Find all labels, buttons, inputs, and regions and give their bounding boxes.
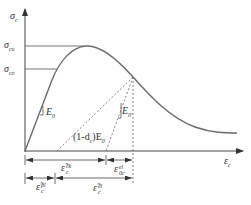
e0-label: E0 — [46, 107, 55, 119]
damaged-modulus-label: (1-dc)E0 — [73, 132, 105, 144]
y-axis-label: σc — [10, 11, 18, 23]
x-axis-label: εc — [224, 156, 231, 168]
plastic-strain-label: ε̃plc — [36, 182, 46, 194]
elastic-strain-0c-label: εel0c — [114, 164, 125, 176]
sigma-cu-label: σcu — [4, 40, 15, 52]
cracking-strain-label: ε̃ckc — [61, 163, 71, 175]
stress-strain-curve — [25, 46, 237, 151]
e0-prime-label: E0' — [122, 106, 132, 118]
stress-strain-diagram — [0, 0, 251, 205]
sigma-co-label: σco — [4, 64, 15, 76]
elastic-strain-label: ε̃elc — [93, 183, 102, 195]
